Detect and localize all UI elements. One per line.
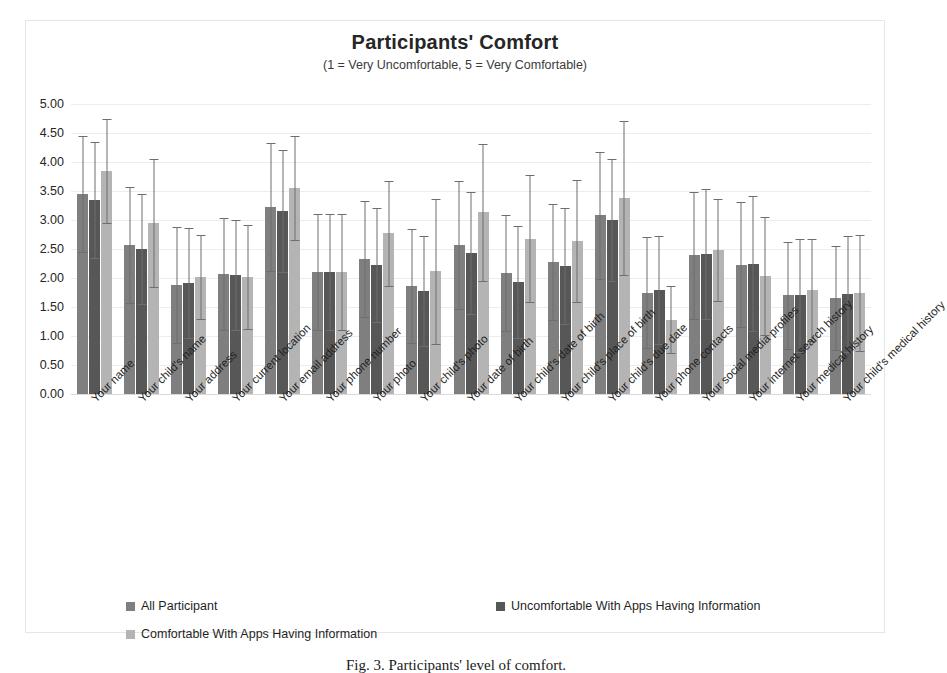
legend-item-all-participant: All Participant — [126, 599, 496, 613]
error-bar-cap — [549, 320, 558, 321]
error-bar — [718, 199, 719, 301]
bar-slot — [406, 104, 417, 394]
error-bar-cap — [667, 286, 676, 287]
error-bar-cap — [266, 271, 275, 272]
error-bar-cap — [125, 187, 134, 188]
error-bar-cap — [655, 236, 664, 237]
bar-slot — [77, 104, 88, 394]
error-bar — [188, 228, 189, 338]
y-axis-tick-label: 5.00 — [40, 97, 64, 111]
bar-slot — [430, 104, 441, 394]
error-bar-cap — [690, 319, 699, 320]
error-bar-cap — [737, 327, 746, 328]
error-bar-cap — [313, 214, 322, 215]
error-bar — [530, 175, 531, 303]
legend-item-uncomfortable: Uncomfortable With Apps Having Informati… — [496, 599, 760, 613]
error-bar — [247, 225, 248, 329]
error-bar-cap — [219, 330, 228, 331]
error-bar-cap — [608, 159, 617, 160]
bar-slot — [242, 104, 253, 394]
error-bar — [753, 196, 754, 332]
legend-label: All Participant — [141, 599, 217, 613]
error-bar — [341, 214, 342, 330]
error-bar — [141, 194, 142, 304]
error-bar-cap — [643, 348, 652, 349]
bar-slot — [136, 104, 147, 394]
error-bar-cap — [702, 319, 711, 320]
bar-slot — [101, 104, 112, 394]
error-bar-cap — [455, 309, 464, 310]
error-bar — [235, 220, 236, 330]
error-bar-cap — [714, 199, 723, 200]
chart-subtitle: (1 = Very Uncomfortable, 5 = Very Comfor… — [26, 58, 884, 72]
error-bar-cap — [796, 239, 805, 240]
error-bar-cap — [102, 119, 111, 120]
error-bar — [200, 235, 201, 319]
error-bar — [411, 229, 412, 343]
error-bar-cap — [102, 223, 111, 224]
legend-swatch-icon — [126, 630, 135, 639]
error-bar — [835, 246, 836, 350]
error-bar-cap — [325, 330, 334, 331]
error-bar — [364, 201, 365, 317]
error-bar — [483, 144, 484, 281]
y-axis-tick-label: 2.00 — [40, 271, 64, 285]
error-bar-cap — [526, 175, 535, 176]
error-bar-cap — [514, 226, 523, 227]
error-bar — [788, 242, 789, 349]
error-bar — [506, 215, 507, 331]
chart-frame: Participants' Comfort (1 = Very Uncomfor… — [25, 20, 885, 633]
error-bar-cap — [561, 324, 570, 325]
y-axis-tick-label: 2.50 — [40, 242, 64, 256]
error-bar — [270, 143, 271, 271]
error-bar — [647, 237, 648, 347]
title-block: Participants' Comfort (1 = Very Uncomfor… — [26, 31, 884, 72]
error-bar — [94, 142, 95, 258]
error-bar-cap — [808, 239, 817, 240]
error-bar-cap — [219, 218, 228, 219]
error-bar-cap — [467, 192, 476, 193]
error-bar-cap — [431, 344, 440, 345]
error-bar-cap — [149, 287, 158, 288]
figure-caption: Fig. 3. Participants' level of comfort. — [0, 657, 912, 673]
error-bar-cap — [502, 331, 511, 332]
error-bar — [329, 214, 330, 330]
error-bar — [577, 180, 578, 302]
error-bar — [624, 121, 625, 274]
error-bar-cap — [407, 343, 416, 344]
error-bar-cap — [137, 304, 146, 305]
error-bar-cap — [384, 286, 393, 287]
error-bar-cap — [561, 208, 570, 209]
y-axis-tick-label: 3.00 — [40, 213, 64, 227]
error-bar-cap — [596, 152, 605, 153]
error-bar-cap — [372, 322, 381, 323]
y-axis-tick-labels: 0.000.501.001.502.002.503.003.504.004.50… — [26, 104, 68, 394]
error-bar-cap — [231, 220, 240, 221]
legend-label: Uncomfortable With Apps Having Informati… — [511, 599, 760, 613]
error-bar — [847, 236, 848, 352]
error-bar-cap — [502, 215, 511, 216]
error-bar — [741, 202, 742, 327]
bar-group — [71, 104, 118, 394]
error-bar-cap — [184, 228, 193, 229]
error-bar — [129, 187, 130, 303]
error-bar-cap — [313, 330, 322, 331]
error-bar — [294, 136, 295, 240]
error-bar-cap — [172, 343, 181, 344]
error-bar-cap — [243, 225, 252, 226]
legend-row: All Participant Uncomfortable With Apps … — [126, 599, 886, 613]
error-bar — [423, 236, 424, 346]
error-bar — [376, 208, 377, 322]
error-bar-cap — [737, 202, 746, 203]
error-bar-cap — [667, 353, 676, 354]
error-bar-cap — [290, 240, 299, 241]
error-bar-cap — [749, 196, 758, 197]
error-bar-cap — [643, 237, 652, 238]
error-bar-cap — [419, 236, 428, 237]
error-bar-cap — [90, 142, 99, 143]
error-bar — [553, 204, 554, 320]
error-bar-cap — [549, 204, 558, 205]
error-bar — [317, 214, 318, 330]
error-bar — [565, 208, 566, 324]
error-bar-cap — [573, 180, 582, 181]
